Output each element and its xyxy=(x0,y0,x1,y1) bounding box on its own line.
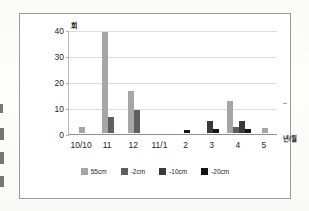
y-axis-tick-label: 20 xyxy=(55,78,64,88)
page-edge-artifact xyxy=(0,128,4,140)
bar xyxy=(134,110,140,133)
y-axis-unit-label: 회 xyxy=(71,20,77,30)
x-axis-tick-label: 5 xyxy=(262,140,267,150)
bar-group xyxy=(121,30,147,133)
legend-item: -2cm xyxy=(121,168,145,175)
bar xyxy=(108,117,114,133)
legend-item: 55cm xyxy=(81,168,107,175)
bar xyxy=(262,128,268,133)
plot-area: 403020100 xyxy=(68,31,277,135)
legend-item: -10cm xyxy=(159,168,187,175)
bar-group xyxy=(147,30,173,133)
legend-label: 55cm xyxy=(91,168,107,175)
x-axis-tick-label: 3 xyxy=(209,140,214,150)
bar xyxy=(79,127,85,134)
legend-label: -2cm xyxy=(131,168,145,175)
legend-swatch xyxy=(121,168,128,175)
x-axis-tick-label: 2 xyxy=(183,140,188,150)
bar-group xyxy=(69,30,95,133)
x-axis-tick-label: 12 xyxy=(129,140,138,150)
bar-group xyxy=(200,30,226,133)
legend-label: -10cm xyxy=(169,168,187,175)
legend-swatch xyxy=(81,168,88,175)
y-axis-tick-label: 30 xyxy=(55,52,64,62)
x-axis-tick-label: 4 xyxy=(235,140,240,150)
plot-area-wrapper: 회 403020100 10/10111211/12345 년/월 xyxy=(37,31,279,141)
legend-item: -20cm xyxy=(201,168,229,175)
legend-swatch xyxy=(159,168,166,175)
bar-group xyxy=(226,30,252,133)
x-axis-unit-label: 년/월 xyxy=(283,133,297,143)
x-axis-tick-label: 11 xyxy=(103,140,112,150)
scan-speck-artifact xyxy=(283,103,287,104)
bar xyxy=(245,129,251,133)
bar-group xyxy=(174,30,200,133)
y-axis-tick-label: 10 xyxy=(55,104,64,114)
chart-legend: 55cm-2cm-10cm-20cm xyxy=(19,168,291,175)
bar-group xyxy=(252,30,278,133)
page-edge-artifact xyxy=(0,152,4,164)
y-axis-tick-mark xyxy=(66,135,69,136)
y-axis-tick-label: 40 xyxy=(55,26,64,36)
legend-swatch xyxy=(201,168,208,175)
x-axis-tick-label: 10/10 xyxy=(70,140,91,150)
y-axis-tick-label: 0 xyxy=(59,130,64,140)
x-axis-tick-label: 11/1 xyxy=(151,140,167,150)
bar xyxy=(213,129,219,133)
page-edge-artifact xyxy=(0,104,3,113)
scanned-page: 회 403020100 10/10111211/12345 년/월 55cm-2… xyxy=(0,0,309,211)
x-axis-tick-labels: 10/10111211/12345 xyxy=(68,137,277,153)
legend-label: -20cm xyxy=(211,168,229,175)
page-edge-artifact xyxy=(0,176,4,187)
bar xyxy=(184,130,190,133)
bar-group xyxy=(95,30,121,133)
